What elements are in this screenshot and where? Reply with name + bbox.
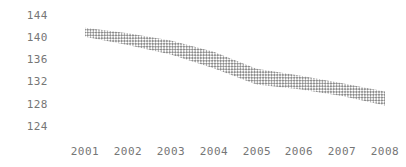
- x-tick-label: 2003: [157, 145, 186, 158]
- x-axis: 2001 2002 2003 2004 2005 2006 2007 2008: [0, 0, 406, 167]
- x-tick-label: 2005: [243, 145, 272, 158]
- x-tick-label: 2007: [328, 145, 357, 158]
- x-tick-label: 2006: [285, 145, 314, 158]
- x-tick-label: 2001: [71, 145, 100, 158]
- x-tick-label: 2002: [114, 145, 143, 158]
- x-tick-label: 2008: [371, 145, 400, 158]
- x-tick-label: 2004: [200, 145, 229, 158]
- chart-container: 144 140 136 132 128 124 2001 2002 2003 2…: [0, 0, 406, 167]
